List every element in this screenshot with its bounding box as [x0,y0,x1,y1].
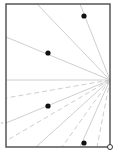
data-point [45,103,50,108]
data-point [81,13,86,18]
solid-ray [6,37,110,80]
ray-lines [6,4,110,147]
open-circle-marker [108,145,113,150]
solid-ray [80,80,110,147]
side-tick-mark [1,122,2,123]
solid-ray [37,4,110,80]
data-point [81,140,86,145]
data-points [45,13,86,145]
data-point [45,50,50,55]
radial-diagram [0,0,115,160]
